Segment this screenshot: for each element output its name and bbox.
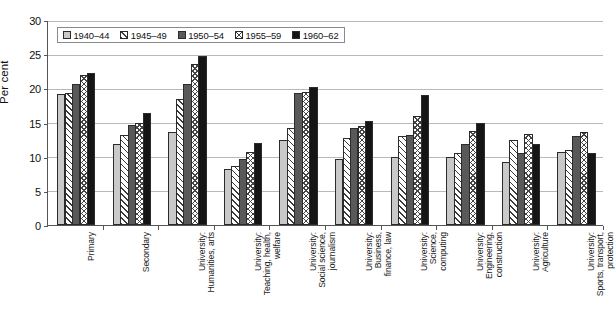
x-axis-category-label: University: Teaching, health, welfare [254,232,282,318]
bar-group [270,21,326,225]
bar [143,113,151,225]
bar-group [437,21,493,225]
legend-label: 1950–54 [188,30,224,41]
bar [532,144,540,225]
x-axis-tick [547,226,548,230]
x-axis-category-label: University: Sports, transport, protectio… [587,232,615,318]
y-axis-tick-label: 15 [1,118,41,130]
legend-item: 1960–62 [292,30,338,41]
bar [476,123,484,225]
x-axis-tick [436,226,437,230]
bar-group [326,21,382,225]
x-axis-tick [158,226,159,230]
bar-group [215,21,271,225]
legend-item: 1940–44 [63,30,109,41]
x-axis-category-label: University: Business, finance, law [365,232,393,318]
bar [309,87,317,225]
legend-item: 1945–49 [120,30,166,41]
chart-legend: 1940–441945–491950–541955–591960–62 [57,27,345,43]
bar [365,121,373,225]
bar [587,153,595,225]
y-axis-tick-label: 10 [1,152,41,164]
legend-label: 1940–44 [74,30,110,41]
y-axis-tick [44,226,48,227]
legend-label: 1945–49 [131,30,167,41]
x-axis-tick [214,226,215,230]
x-axis-category-label: Secondary [142,232,151,318]
bar [198,56,206,225]
x-axis-category-label: University: Engineering, construction [476,232,504,318]
legend-label: 1955–59 [245,30,281,41]
x-axis-category-label: Primary [87,232,96,318]
bar [254,143,262,225]
bar [87,73,95,225]
bar-group [159,21,215,225]
legend-item: 1950–54 [178,30,224,41]
bar-group [104,21,160,225]
legend-label: 1960–62 [303,30,339,41]
bar-group [382,21,438,225]
y-axis-tick-label: 0 [1,220,41,232]
legend-swatch-icon [178,31,186,39]
x-axis-category-label: University: Agriculture [532,232,551,318]
y-axis-tick-label: 25 [1,49,41,61]
x-axis-tick [103,226,104,230]
bar-group [548,21,604,225]
legend-swatch-icon [292,31,300,39]
x-axis-tick [381,226,382,230]
y-axis-title: Per cent [0,60,10,104]
x-axis-category-label: University: Humanities, arts [198,232,217,318]
y-axis-tick-label: 20 [1,83,41,95]
x-axis-tick [325,226,326,230]
x-axis-category-label: University: Science, computing [420,232,448,318]
legend-swatch-icon [63,31,71,39]
y-axis-tick-label: 5 [1,186,41,198]
bar-group [48,21,104,225]
legend-swatch-icon [120,31,128,39]
legend-item: 1955–59 [235,30,281,41]
x-axis-category-label: University: Social science, journalism [309,232,337,318]
x-axis-tick [269,226,270,230]
bar [421,95,429,225]
x-axis-tick [603,226,604,230]
x-axis-tick [492,226,493,230]
plot-area [47,21,603,226]
legend-swatch-icon [235,31,243,39]
y-axis-tick-label: 30 [1,15,41,27]
bar-group [493,21,549,225]
